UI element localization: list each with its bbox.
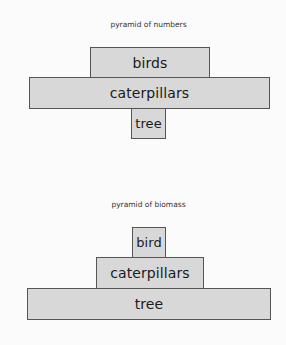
pyramid-numbers-title: pyramid of numbers (0, 20, 286, 29)
numbers-level-caterpillars: caterpillars (29, 77, 270, 109)
biomass-level-bird: bird (132, 227, 166, 258)
numbers-level-tree: tree (131, 108, 166, 139)
biomass-level-tree: tree (27, 288, 271, 320)
numbers-level-birds: birds (90, 47, 210, 78)
biomass-level-caterpillars: caterpillars (96, 257, 204, 289)
pyramid-biomass-title: pyramid of biomass (0, 200, 286, 209)
